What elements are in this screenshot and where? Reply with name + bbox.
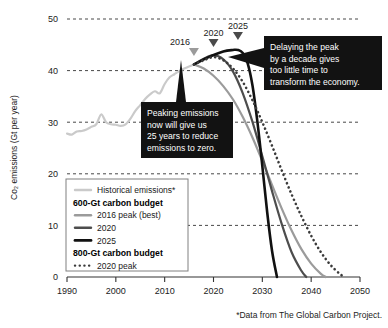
- y-axis-ticks: 01020304050: [48, 14, 58, 282]
- x-tick-label: 2030: [252, 286, 272, 296]
- callout-line: now will give us: [147, 120, 207, 130]
- y-tick-label: 20: [48, 169, 58, 179]
- legend-item-label: 2020 peak: [97, 261, 137, 271]
- callout-line: emissions to zero.: [147, 143, 216, 153]
- x-axis: 1990200020102020203020402050: [57, 277, 370, 296]
- peak-marker-triangle-icon: [209, 39, 219, 47]
- peak-marker-triangle-icon: [233, 32, 243, 40]
- y-tick-label: 50: [48, 14, 58, 24]
- y-tick-label: 10: [48, 221, 58, 231]
- x-tick-label: 2040: [301, 286, 321, 296]
- x-tick-label: 2010: [155, 286, 175, 296]
- callout-line: Peaking emissions: [147, 108, 219, 118]
- chart-canvas: 01020304050 1990200020102020203020402050…: [0, 0, 388, 328]
- legend-item-label: 2020: [97, 223, 116, 233]
- peak-marker-triangle-icon: [189, 48, 199, 56]
- source-note: *Data from The Global Carbon Project.: [236, 310, 382, 320]
- x-tick-label: 1990: [57, 286, 77, 296]
- peak-marker-label: 2016: [170, 37, 190, 47]
- x-tick-label: 2000: [106, 286, 126, 296]
- callout-line: 25 years to reduce: [147, 131, 218, 141]
- x-tick-label: 2020: [203, 286, 223, 296]
- peak-marker-label: 2025: [228, 21, 248, 31]
- peak-marker-label: 2020: [203, 28, 223, 38]
- y-tick-label: 0: [53, 272, 58, 282]
- emissions-chart: 01020304050 1990200020102020203020402050…: [0, 0, 388, 328]
- callout-line: too little time to: [270, 65, 328, 75]
- series-line: [194, 57, 345, 277]
- legend-group-header: 800-Gt carbon budget: [73, 248, 163, 258]
- y-axis-title: Co₂ emissions (Gt per year): [9, 95, 19, 200]
- legend-item-label: 2016 peak (best): [97, 210, 161, 220]
- series-line: [194, 64, 326, 277]
- callout-line: by a decade gives: [270, 54, 339, 64]
- y-tick-label: 40: [48, 66, 58, 76]
- legend-group-header: 600-Gt carbon budget: [73, 198, 163, 208]
- callout-line: transform the economy.: [270, 77, 360, 87]
- legend-item-label: 2025: [97, 236, 116, 246]
- annotation-callouts: Peaking emissionsnow will give us25 year…: [141, 36, 382, 158]
- y-tick-label: 30: [48, 118, 58, 128]
- chart-legend: Historical emissions*600-Gt carbon budge…: [66, 179, 188, 271]
- legend-item-label: Historical emissions*: [97, 185, 176, 195]
- callout-pointer: [176, 60, 186, 102]
- callout-line: Delaying the peak: [270, 42, 339, 52]
- x-tick-label: 2050: [350, 286, 370, 296]
